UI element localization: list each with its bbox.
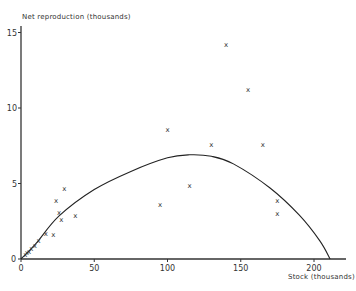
data-point-marker: x [57,209,61,217]
plot-area: 050100150200 051015 xxxxxxxxxxxxxxxxxxxx… [0,0,356,291]
y-tick-label: 10 [7,104,17,113]
data-point-marker: x [37,237,41,245]
fitted-curve [21,155,330,259]
x-tick-label: 0 [18,264,23,273]
data-point-marker: x [73,212,77,220]
y-ticks: 051015 [7,29,21,265]
data-point-marker: x [44,230,48,238]
data-point-marker: x [62,185,66,193]
data-point-marker: x [275,197,279,205]
data-point-marker: x [158,201,162,209]
data-points: xxxxxxxxxxxxxxxxxxxxxx [23,41,279,259]
x-axis-label: Stock (thousands) [288,273,355,281]
data-point-marker: x [275,210,279,218]
x-ticks: 050100150200 [18,259,321,273]
y-axis-label: Net reproduction (thousands) [22,13,131,21]
x-tick-label: 200 [306,264,321,273]
data-point-marker: x [54,197,58,205]
data-point-marker: x [51,231,55,239]
y-tick-label: 0 [11,255,16,264]
y-tick-label: 15 [7,29,17,38]
data-point-marker: x [261,141,265,149]
chart: 050100150200 051015 xxxxxxxxxxxxxxxxxxxx… [0,0,356,291]
data-point-marker: x [187,182,191,190]
x-tick-label: 150 [233,264,248,273]
y-tick-label: 5 [12,180,17,189]
x-tick-label: 50 [89,264,99,273]
data-point-marker: x [59,216,63,224]
data-point-marker: x [224,41,228,49]
data-point-marker: x [209,141,213,149]
x-tick-label: 100 [160,264,175,273]
axes [21,26,346,259]
data-point-marker: x [165,126,169,134]
data-point-marker: x [246,86,250,94]
